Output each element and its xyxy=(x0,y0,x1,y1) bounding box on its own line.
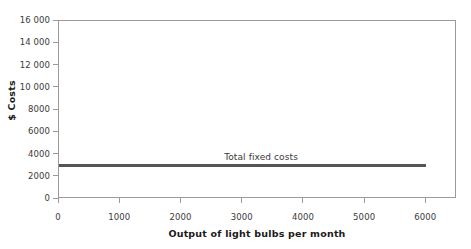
x-axis-tick xyxy=(364,198,365,203)
total-fixed-costs-label: Total fixed costs xyxy=(224,152,298,162)
y-axis-tick xyxy=(53,131,58,132)
y-axis-tick-label: 8000 xyxy=(28,104,50,114)
x-axis-tick-label: 3000 xyxy=(231,212,253,222)
y-axis-tick-label-wrap: 2000 xyxy=(0,171,50,181)
x-axis-tick-label-wrap: 1000 xyxy=(89,205,149,224)
x-axis-tick xyxy=(241,198,242,203)
x-axis-tick xyxy=(180,198,181,203)
x-axis-tick-label-wrap: 5000 xyxy=(334,205,394,224)
y-axis-tick-label: 10 000 xyxy=(20,82,50,92)
x-axis-tick-label: 2000 xyxy=(169,212,191,222)
y-axis-tick-label: 14 000 xyxy=(20,37,50,47)
x-axis-tick-label: 5000 xyxy=(353,212,375,222)
y-axis-tick-label: 0 xyxy=(44,193,50,203)
y-axis-tick xyxy=(53,86,58,87)
x-axis-tick xyxy=(58,198,59,203)
x-axis-tick-label: 0 xyxy=(55,212,61,222)
y-axis-tick-label: 16 000 xyxy=(20,15,50,25)
x-axis-tick-label: 1000 xyxy=(108,212,130,222)
x-axis-tick-label-wrap: 6000 xyxy=(395,205,455,224)
y-axis-tick xyxy=(53,42,58,43)
x-axis-tick-label: 4000 xyxy=(292,212,314,222)
x-axis-tick xyxy=(425,198,426,203)
y-axis-tick xyxy=(53,20,58,21)
x-axis-title: Output of light bulbs per month xyxy=(58,228,456,239)
x-axis-tick xyxy=(119,198,120,203)
y-axis-tick xyxy=(53,64,58,65)
chart-figure: Total fixed costs 0200040006000800010 00… xyxy=(0,0,471,249)
y-axis-tick-label-wrap: 16 000 xyxy=(0,15,50,25)
total-fixed-costs-line xyxy=(59,164,426,167)
y-axis-tick xyxy=(53,153,58,154)
x-axis-tick-label-wrap: 2000 xyxy=(150,205,210,224)
y-axis-tick-label: 4000 xyxy=(28,149,50,159)
x-axis-tick xyxy=(302,198,303,203)
x-axis-tick-label-wrap: 4000 xyxy=(273,205,333,224)
x-axis-tick-label-wrap: 0 xyxy=(28,205,88,224)
plot-area: Total fixed costs xyxy=(58,20,456,198)
y-axis-tick xyxy=(53,175,58,176)
y-axis-tick xyxy=(53,109,58,110)
y-axis-tick-label-wrap: 14 000 xyxy=(0,37,50,47)
x-axis-tick-label-wrap: 3000 xyxy=(212,205,272,224)
x-axis-tick-label: 6000 xyxy=(414,212,436,222)
y-axis-tick-label: 6000 xyxy=(28,126,50,136)
y-axis-title: $ Costs xyxy=(6,66,17,136)
y-axis-tick-label-wrap: 4000 xyxy=(0,149,50,159)
y-axis-tick-label-wrap: 0 xyxy=(0,193,50,203)
y-axis-tick-label: 2000 xyxy=(28,171,50,181)
y-axis-tick-label: 12 000 xyxy=(20,60,50,70)
